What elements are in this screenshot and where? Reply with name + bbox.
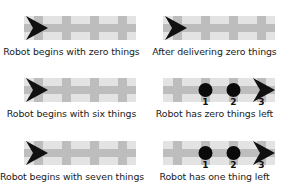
junction-4: [257, 16, 266, 40]
junction-3: [90, 78, 99, 102]
thing-dot-1: [199, 83, 213, 97]
junction-2: [201, 16, 210, 40]
panel-caption: Robot begins with six things: [0, 108, 143, 119]
panel-5: Robot begins with seven things: [0, 125, 143, 187]
thing-dot-2: [227, 83, 241, 97]
thing-label-1: 1: [202, 160, 208, 170]
junction-2: [62, 78, 71, 102]
thing-label-2: 2: [230, 160, 236, 170]
junction-4: [118, 141, 127, 165]
junction-2: [62, 16, 71, 40]
panel-3: Robot begins with six things: [0, 62, 143, 124]
thing-label-1: 1: [202, 97, 208, 107]
junction-1: [173, 141, 182, 165]
thing-dot-1: [199, 146, 213, 160]
junction-4: [118, 16, 127, 40]
panel-caption: Robot has zero things left: [143, 108, 286, 119]
panel-4: 123Robot has zero things left: [143, 62, 286, 124]
panel-2: After delivering zero things: [143, 0, 286, 62]
panel-caption: After delivering zero things: [143, 46, 286, 57]
junction-2: [62, 141, 71, 165]
junction-3: [229, 16, 238, 40]
panel-6: 123Robot has one thing left: [143, 125, 286, 187]
junction-3: [90, 16, 99, 40]
junction-3: [90, 141, 99, 165]
junction-4: [118, 78, 127, 102]
panel-1: Robot begins with zero things: [0, 0, 143, 62]
thing-label-2: 2: [230, 97, 236, 107]
panel-caption: Robot begins with seven things: [0, 171, 143, 182]
panel-caption: Robot begins with zero things: [0, 46, 143, 57]
thing-dot-2: [227, 146, 241, 160]
junction-1: [173, 78, 182, 102]
panel-caption: Robot has one thing left: [143, 171, 286, 182]
